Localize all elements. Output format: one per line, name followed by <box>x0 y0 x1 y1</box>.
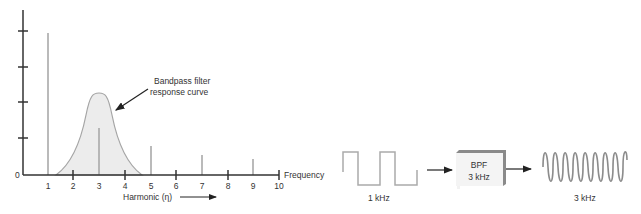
bpf-label-line2: 3 kHz <box>468 172 490 182</box>
svg-text:7: 7 <box>200 181 205 191</box>
annotation-line2: response curve <box>150 87 208 97</box>
svg-text:6: 6 <box>174 181 179 191</box>
square-wave <box>343 152 417 185</box>
x-axis-title: Harmonic (η) <box>123 192 172 202</box>
bpf-label-line1: BPF <box>471 160 488 170</box>
frequency-label: Frequency <box>284 170 325 180</box>
svg-text:2: 2 <box>71 181 76 191</box>
y-zero-label: 0 <box>15 170 20 180</box>
svg-text:3: 3 <box>97 181 102 191</box>
block-diagram: 1 kHz BPF 3 kHz 3 kHz <box>343 150 627 203</box>
sine-wave <box>543 152 627 182</box>
output-label: 3 kHz <box>574 193 596 203</box>
svg-text:5: 5 <box>149 181 154 191</box>
svg-text:8: 8 <box>226 181 231 191</box>
bpf-box: BPF 3 kHz <box>456 150 506 189</box>
x-tick-labels: 1 2 3 4 5 6 7 8 9 10 <box>46 181 284 191</box>
figure: 0 Frequency 1 2 3 4 5 6 7 8 9 10 Harmoni… <box>0 0 641 214</box>
svg-text:9: 9 <box>251 181 256 191</box>
annotation-line1: Bandpass filter <box>154 76 210 86</box>
input-label: 1 kHz <box>368 193 390 203</box>
spectrum-chart: 0 Frequency 1 2 3 4 5 6 7 8 9 10 Harmoni… <box>15 10 325 202</box>
svg-text:10: 10 <box>274 181 284 191</box>
svg-text:1: 1 <box>46 181 51 191</box>
svg-text:4: 4 <box>123 181 128 191</box>
annotation-arrow <box>116 89 148 110</box>
